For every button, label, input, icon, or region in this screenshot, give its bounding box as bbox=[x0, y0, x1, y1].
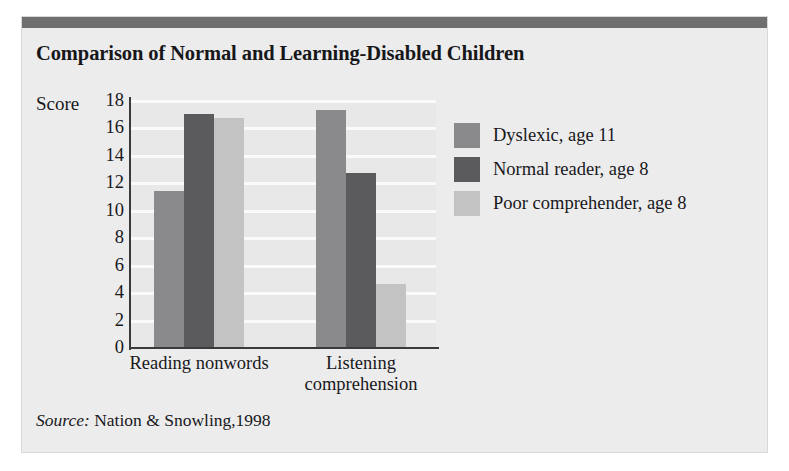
legend-item: Poor comprehender, age 8 bbox=[454, 191, 686, 216]
bar bbox=[346, 173, 376, 347]
y-axis-tick-label: 2 bbox=[80, 310, 124, 329]
bar bbox=[154, 191, 184, 347]
legend-item-label: Normal reader, age 8 bbox=[493, 159, 648, 180]
bar bbox=[214, 118, 244, 347]
gridline bbox=[130, 155, 436, 158]
bar bbox=[184, 114, 214, 347]
x-axis-tick-label: Reading nonwords bbox=[114, 353, 284, 374]
source-label: Source: bbox=[36, 410, 90, 430]
y-axis-tick-label: 18 bbox=[80, 91, 124, 110]
y-axis-tick-label: 12 bbox=[80, 173, 124, 192]
gridline bbox=[130, 182, 436, 185]
legend-item: Normal reader, age 8 bbox=[454, 157, 686, 182]
y-axis-tick-label: 6 bbox=[80, 255, 124, 274]
gridline bbox=[130, 127, 436, 130]
legend-swatch-icon bbox=[454, 191, 480, 216]
legend-swatch-icon bbox=[454, 123, 480, 148]
legend-item-label: Poor comprehender, age 8 bbox=[493, 193, 686, 214]
y-axis-line bbox=[129, 97, 131, 350]
y-axis-tick-labels: 181614121086420 bbox=[74, 100, 124, 347]
top-rule-decoration bbox=[22, 17, 767, 28]
y-axis-tick-label: 14 bbox=[80, 146, 124, 165]
source-citation: Nation & Snowling,1998 bbox=[90, 410, 271, 430]
legend-item: Dyslexic, age 11 bbox=[454, 123, 686, 148]
figure-panel: Comparison of Normal and Learning-Disabl… bbox=[22, 17, 767, 452]
y-axis-tick-label: 16 bbox=[80, 118, 124, 137]
y-axis-tick-label: 4 bbox=[80, 283, 124, 302]
plot-area bbox=[130, 100, 436, 347]
gridline bbox=[130, 100, 436, 103]
x-axis-tick-label: Listening comprehension bbox=[276, 353, 446, 394]
bar bbox=[316, 110, 346, 347]
source-note: Source: Nation & Snowling,1998 bbox=[36, 410, 271, 431]
y-axis-tick-label: 8 bbox=[80, 228, 124, 247]
y-axis-tick-label: 10 bbox=[80, 201, 124, 220]
bar bbox=[376, 284, 406, 347]
y-axis-title: Score bbox=[36, 93, 79, 115]
x-axis-line bbox=[129, 347, 439, 349]
chart-legend: Dyslexic, age 11Normal reader, age 8Poor… bbox=[454, 123, 686, 225]
legend-swatch-icon bbox=[454, 157, 480, 182]
legend-item-label: Dyslexic, age 11 bbox=[493, 125, 616, 146]
chart-title: Comparison of Normal and Learning-Disabl… bbox=[36, 42, 524, 65]
